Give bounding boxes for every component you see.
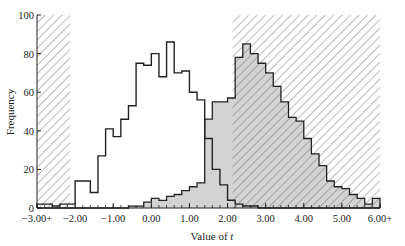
y-tick-label: 80	[24, 49, 35, 60]
x-tick-label: 1.00	[180, 213, 198, 224]
x-tick-label: −2.00	[63, 213, 87, 224]
x-tick-label: 5.00	[333, 213, 351, 224]
x-tick-label: 0.00	[142, 213, 160, 224]
x-tick-label: 6.00+	[368, 213, 392, 224]
y-axis-label: Frequency	[4, 88, 16, 135]
histogram-chart: 020406080100−3.00+−2.00−1.000.001.002.00…	[0, 0, 405, 246]
x-tick-label: −1.00	[101, 213, 125, 224]
x-tick-label: 3.00	[256, 213, 274, 224]
y-tick-label: 20	[24, 164, 35, 175]
rejection-region-right	[233, 15, 380, 208]
x-tick-label: −3.00+	[22, 213, 52, 224]
x-tick-label: 2.00	[218, 213, 236, 224]
x-axis-label: Value of t	[191, 230, 235, 242]
y-tick-label: 100	[18, 10, 34, 21]
y-tick-label: 60	[24, 87, 35, 98]
rejection-region-left	[37, 15, 70, 208]
y-tick-label: 40	[24, 126, 35, 137]
x-tick-label: 4.00	[295, 213, 313, 224]
